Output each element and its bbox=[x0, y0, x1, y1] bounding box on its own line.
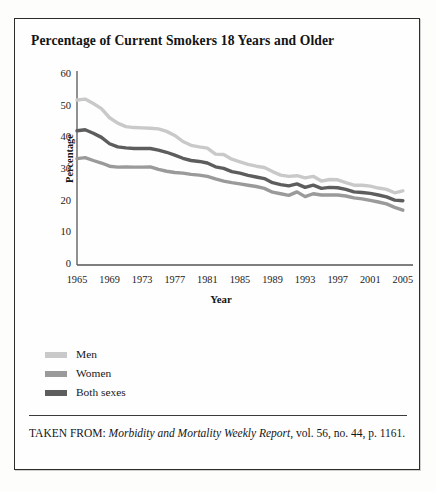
figure-page: Percentage of Current Smokers 18 Years a… bbox=[0, 0, 436, 492]
chart-legend: MenWomenBoth sexes bbox=[45, 345, 285, 402]
line-chart-svg bbox=[15, 65, 421, 305]
legend-item-label: Men bbox=[76, 349, 97, 360]
chart-plot-area: Percentage 0102030405060 196519691973197… bbox=[15, 65, 421, 323]
source-citation: TAKEN FROM: Morbidity and Mortality Week… bbox=[29, 425, 409, 441]
source-publication: Morbidity and Mortality Weekly Report bbox=[109, 427, 291, 439]
legend-swatch-icon bbox=[45, 390, 67, 396]
legend-swatch-icon bbox=[45, 371, 67, 377]
source-details: , vol. 56, no. 44, p. 1161. bbox=[290, 427, 405, 439]
legend-item: Both sexes bbox=[45, 383, 285, 402]
figure-frame: Percentage of Current Smokers 18 Years a… bbox=[14, 18, 420, 470]
series-line-men bbox=[77, 99, 403, 193]
legend-item: Women bbox=[45, 364, 285, 383]
legend-swatch-icon bbox=[45, 352, 67, 358]
source-prefix: TAKEN FROM: bbox=[29, 427, 106, 439]
legend-item-label: Both sexes bbox=[76, 387, 126, 398]
page-title: Percentage of Current Smokers 18 Years a… bbox=[31, 33, 334, 49]
legend-item: Men bbox=[45, 345, 285, 364]
source-divider bbox=[29, 415, 407, 416]
legend-item-label: Women bbox=[76, 368, 111, 379]
